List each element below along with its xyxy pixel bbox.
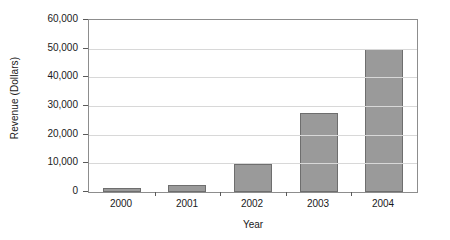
- x-axis-tick-label: 2001: [154, 198, 220, 210]
- x-axis-tick: [220, 192, 221, 196]
- y-axis-tick-label: 30,000: [0, 100, 78, 110]
- x-axis-tick-label: 2003: [285, 198, 351, 210]
- x-axis-tick-label: 2004: [350, 198, 416, 210]
- bar: [103, 188, 141, 192]
- x-axis-title: Year: [88, 219, 418, 231]
- y-axis-tick-label: 60,000: [0, 14, 78, 24]
- y-axis-tick-labels: 010,00020,00030,00040,00050,00060,000: [0, 0, 84, 240]
- bar-chart: Revenue (Dollars) 010,00020,00030,00040,…: [0, 0, 450, 240]
- gridline: [89, 135, 417, 136]
- bar: [234, 164, 272, 192]
- x-axis-tick: [286, 192, 287, 196]
- bar: [300, 113, 338, 192]
- x-axis-tick-label: 2000: [88, 198, 154, 210]
- gridline: [89, 106, 417, 107]
- x-axis-tick-labels: 20002001200220032004: [88, 198, 418, 212]
- bar: [365, 49, 403, 192]
- x-axis-tick-label: 2002: [219, 198, 285, 210]
- plot-area: [88, 19, 418, 193]
- x-axis-tick: [155, 192, 156, 196]
- gridline: [89, 77, 417, 78]
- y-axis-tick-label: 50,000: [0, 43, 78, 53]
- bar: [168, 185, 206, 192]
- y-axis-tick-label: 40,000: [0, 71, 78, 81]
- gridline: [89, 163, 417, 164]
- y-axis-tick-label: 10,000: [0, 157, 78, 167]
- gridline: [89, 49, 417, 50]
- y-axis-tick-label: 20,000: [0, 129, 78, 139]
- y-axis-tick-label: 0: [0, 186, 78, 196]
- x-axis-tick: [351, 192, 352, 196]
